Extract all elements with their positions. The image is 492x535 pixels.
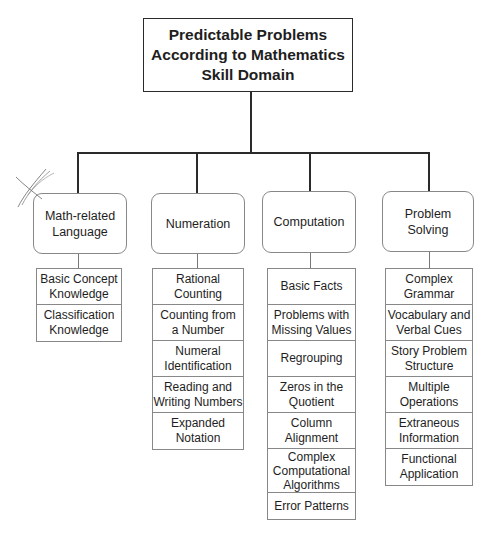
problem-item: Complex Grammar (386, 269, 472, 305)
problem-item: Numeral Identification (153, 341, 243, 377)
drop-line-3 (309, 152, 311, 191)
drop-line-2 (196, 152, 198, 193)
problem-item: Rational Counting (153, 269, 243, 305)
domain-computation: Computation (262, 191, 356, 253)
problem-item: Story Problem Structure (386, 341, 472, 377)
horizontal-bus (77, 152, 429, 154)
problem-item: Basic Facts (268, 269, 355, 305)
diagram-title: Predictable Problems According to Mathem… (143, 18, 353, 92)
computation-problems: Basic Facts Problems with Missing Values… (267, 268, 356, 520)
problem-item: Functional Application (386, 449, 472, 485)
sub-connector-3 (310, 253, 311, 268)
math-language-problems: Basic Concept Knowledge Classification K… (36, 268, 122, 342)
sub-connector-1 (78, 254, 79, 268)
drop-line-1 (77, 152, 79, 193)
numeration-problems: Rational Counting Counting from a Number… (152, 268, 244, 450)
problem-item: Column Alignment (268, 413, 355, 449)
problem-item: Extraneous Information (386, 413, 472, 449)
problem-item: Regrouping (268, 341, 355, 377)
pen-mark-icon (8, 165, 58, 210)
problem-item: Expanded Notation (153, 413, 243, 449)
domain-numeration: Numeration (151, 193, 245, 254)
problem-item: Zeros in the Quotient (268, 377, 355, 413)
sub-connector-2 (197, 254, 198, 268)
problem-item: Basic Concept Knowledge (37, 269, 121, 305)
problem-item: Error Patterns (268, 493, 355, 519)
problem-item: Counting from a Number (153, 305, 243, 341)
problem-item: Multiple Operations (386, 377, 472, 413)
problem-item: Problems with Missing Values (268, 305, 355, 341)
problem-item: Classification Knowledge (37, 305, 121, 341)
problem-item: Vocabulary and Verbal Cues (386, 305, 472, 341)
sub-connector-4 (429, 252, 430, 268)
problem-solving-problems: Complex Grammar Vocabulary and Verbal Cu… (385, 268, 473, 486)
problem-item: Reading and Writing Numbers (153, 377, 243, 413)
drop-line-4 (428, 152, 430, 191)
title-connector (250, 92, 252, 153)
problem-item: Complex Computational Algorithms (268, 449, 355, 493)
domain-problem-solving: Problem Solving (382, 191, 474, 252)
